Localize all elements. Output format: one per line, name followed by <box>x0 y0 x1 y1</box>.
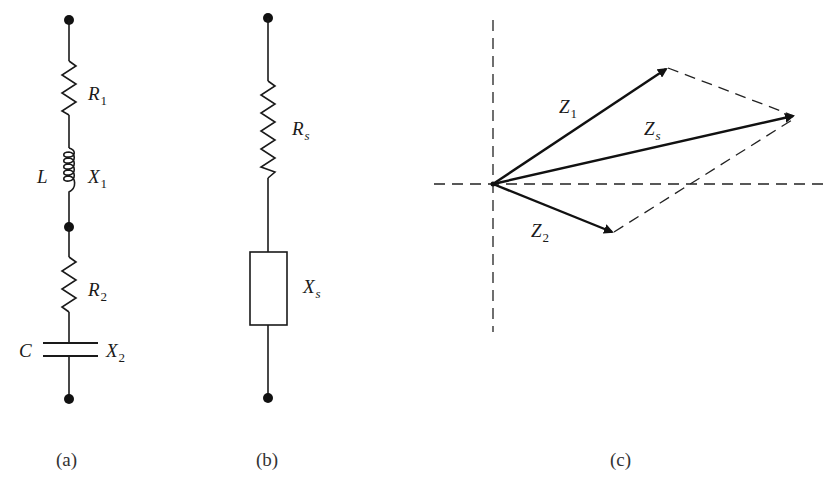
panel-a-circuit: R1 L X1 R2 C X2 (a) <box>19 15 125 471</box>
caption-b: (b) <box>256 449 278 471</box>
label-r1: R1 <box>87 83 107 108</box>
caption-c: (c) <box>610 449 631 471</box>
label-zs: Zs <box>644 118 661 143</box>
label-x1: X1 <box>87 166 107 191</box>
label-rs: Rs <box>291 118 310 143</box>
caption-a: (a) <box>56 449 77 471</box>
panel-b-circuit: Rs Xs (b) <box>250 13 321 471</box>
impedance-figure: R1 L X1 R2 C X2 (a) Rs Xs (b) <box>0 0 831 488</box>
resistor-r2-icon <box>62 257 76 312</box>
label-c: C <box>19 340 32 361</box>
resistor-rs-icon <box>261 81 275 178</box>
resistor-r1-icon <box>62 61 76 115</box>
reactance-xs-icon <box>250 252 287 325</box>
label-r2: R2 <box>87 279 107 304</box>
inductor-l-icon <box>64 148 75 196</box>
vector-z1-icon <box>493 69 666 184</box>
capacitor-c-icon <box>43 343 98 356</box>
label-l: L <box>36 166 48 187</box>
origin-point <box>491 182 496 187</box>
vector-z2-icon <box>493 184 612 232</box>
parallelogram-edge-top <box>668 68 794 116</box>
terminal-bottom-b <box>263 393 273 403</box>
label-z2: Z2 <box>531 220 549 245</box>
terminal-bottom-a <box>64 394 74 404</box>
label-z1: Z1 <box>559 96 577 121</box>
panel-c-phasor-diagram: Z1 Zs Z2 (c) <box>434 20 826 471</box>
vector-zs-icon <box>493 116 793 184</box>
label-xs: Xs <box>302 276 321 301</box>
label-x2: X2 <box>105 340 125 365</box>
